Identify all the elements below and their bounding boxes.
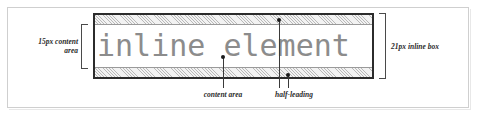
label-half-leading: half-leading (254, 90, 334, 99)
content-area-strip: inline element (95, 26, 372, 66)
callout-dot-half-leading-bottom (286, 73, 290, 77)
label-inline-box-size: 21px inline box (391, 42, 471, 51)
content-area-bracket (81, 24, 88, 69)
callout-dot-half-leading-top (277, 18, 281, 22)
inline-box-bracket (379, 13, 386, 79)
label-content-area-size: 15px content area (22, 37, 78, 56)
inline-box: inline element (93, 13, 374, 79)
leader-line-content-area (223, 57, 224, 88)
callout-dot-content-area (221, 55, 225, 59)
half-leading-band-bottom (95, 67, 372, 77)
half-leading-band-top (95, 15, 372, 25)
inline-box-diagram: inline element 15px content area 21px in… (0, 0, 480, 117)
leader-line-half-leading-top (279, 20, 280, 88)
